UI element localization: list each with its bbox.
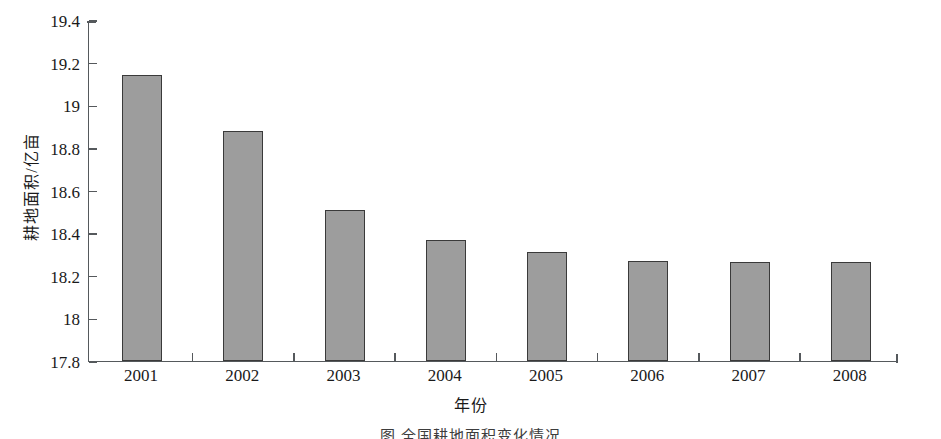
y-axis-tick — [89, 319, 97, 320]
x-axis-tick-labels: 20012002200320042005200620072008 — [88, 366, 898, 392]
bar — [223, 131, 263, 361]
y-axis-tick-label: 18.6 — [18, 183, 80, 200]
y-axis-tick-label: 19.4 — [18, 13, 80, 30]
y-axis-tick — [89, 276, 97, 277]
bar — [730, 262, 770, 361]
x-axis-tick-label: 2001 — [124, 366, 158, 386]
bar — [325, 210, 365, 361]
bar — [122, 75, 162, 361]
y-axis-tick — [89, 106, 97, 107]
x-axis-tick-label: 2002 — [225, 366, 259, 386]
y-axis-tick-label: 19 — [18, 98, 80, 115]
bar — [831, 262, 871, 361]
y-axis-tick-label: 18.2 — [18, 268, 80, 285]
y-axis-tick — [89, 191, 97, 192]
plot-area — [88, 21, 898, 362]
y-axis-tick-label: 18 — [18, 311, 80, 328]
bar-chart-figure: 耕地面积/亿亩 19.419.21918.818.618.418.21817.8… — [0, 0, 941, 439]
x-axis-tick-label: 2007 — [732, 366, 766, 386]
bar — [527, 252, 567, 361]
y-axis-tick-label: 18.4 — [18, 226, 80, 243]
y-axis-tick — [89, 361, 97, 362]
x-axis-tick-label: 2003 — [327, 366, 361, 386]
x-axis-tick — [496, 353, 497, 361]
x-axis-tick — [597, 353, 598, 361]
x-axis-tick-label: 2006 — [630, 366, 664, 386]
bar — [628, 261, 668, 361]
y-axis-tick-label: 17.8 — [18, 354, 80, 371]
x-axis-tick — [799, 353, 800, 361]
y-axis-tick — [89, 63, 97, 64]
bar-series — [89, 21, 898, 361]
x-axis-tick-label: 2004 — [428, 366, 462, 386]
x-axis-tick — [698, 353, 699, 361]
x-axis-tick-label: 2005 — [529, 366, 563, 386]
y-axis-tick-label: 18.8 — [18, 140, 80, 157]
x-axis-tick — [394, 353, 395, 361]
y-axis-tick — [89, 148, 97, 149]
y-axis-tick — [89, 233, 97, 234]
x-axis-tick-label: 2008 — [833, 366, 867, 386]
y-axis-tick — [89, 20, 97, 21]
x-axis-title: 年份 — [0, 392, 941, 416]
x-axis-tick — [192, 353, 193, 361]
bar — [426, 240, 466, 361]
x-axis-tick — [293, 353, 294, 361]
figure-caption: 图 全国耕地面积变化情况 — [0, 424, 941, 439]
y-axis-tick-labels: 19.419.21918.818.618.418.21817.8 — [18, 0, 80, 439]
y-axis-tick-label: 19.2 — [18, 55, 80, 72]
